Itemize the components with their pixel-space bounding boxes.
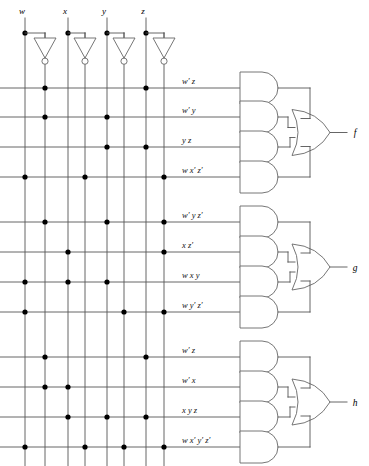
inverter-triangle-y — [113, 38, 135, 58]
connection-dot-g-0 — [42, 219, 47, 224]
and-gate-g-0 — [240, 206, 278, 238]
and-gate-g-3 — [240, 296, 278, 328]
connection-dot-g-3 — [161, 309, 166, 314]
connection-dot-h-2 — [143, 414, 148, 419]
connection-dot-f-3 — [161, 174, 166, 179]
connection-dot-h-0 — [143, 354, 148, 359]
product-term-label-f-1: w′ y — [182, 105, 196, 115]
connection-dot-g-2 — [104, 279, 109, 284]
connection-dot-h-2 — [104, 414, 109, 419]
or-gate-f — [292, 110, 330, 156]
connection-dot-h-1 — [42, 384, 47, 389]
product-term-label-h-2: x y z — [181, 405, 198, 415]
product-term-label-g-2: w x y — [182, 270, 200, 280]
connection-dot-f-1 — [104, 114, 109, 119]
connection-dot-h-1 — [65, 384, 70, 389]
connection-dot-f-2 — [104, 144, 109, 149]
connection-dot-h-3 — [161, 444, 166, 449]
connection-dot-f-0 — [42, 85, 47, 90]
connection-dot-g-2 — [22, 279, 27, 284]
product-term-label-h-3: w x′ y′ z′ — [182, 435, 211, 445]
product-term-label-f-3: w x′ z′ — [182, 165, 203, 175]
output-label-h: h — [353, 398, 358, 408]
connection-dot-h-3 — [22, 444, 27, 449]
connection-dot-g-0 — [104, 219, 109, 224]
logic-diagram-canvas: wxyzw′ zw′ yy zw x′ z′fw′ y z′x z′w x yw… — [0, 0, 369, 466]
inverter-bubble-x — [82, 58, 88, 64]
connection-dot-g-3 — [121, 309, 126, 314]
and-gate-g-2 — [240, 266, 278, 298]
or-gate-h — [292, 379, 330, 425]
connection-dot-h-3 — [121, 444, 126, 449]
and-gate-g-1 — [240, 236, 278, 268]
inverter-bubble-z — [161, 58, 167, 64]
product-term-label-g-0: w′ y z′ — [182, 210, 203, 220]
connection-dot-g-0 — [161, 219, 166, 224]
product-term-label-h-0: w′ z — [182, 345, 196, 355]
input-label-z: z — [140, 6, 145, 16]
and-gate-f-1 — [240, 101, 278, 133]
and-gate-h-3 — [240, 431, 278, 463]
connection-dot-f-0 — [143, 85, 148, 90]
pla-circuit-svg: wxyzw′ zw′ yy zw x′ z′fw′ y z′x z′w x yw… — [0, 0, 369, 466]
product-term-label-g-1: x z′ — [181, 240, 193, 250]
and-gate-f-3 — [240, 161, 278, 193]
input-label-y: y — [101, 6, 106, 16]
connection-dot-h-2 — [65, 414, 70, 419]
and-gate-f-2 — [240, 131, 278, 163]
connection-dot-h-0 — [42, 354, 47, 359]
product-term-label-h-1: w′ x — [182, 375, 196, 385]
connection-dot-h-3 — [82, 444, 87, 449]
output-label-f: f — [354, 128, 358, 138]
or-gate-g — [292, 244, 330, 290]
input-label-w: w — [19, 6, 25, 16]
connection-dot-f-3 — [22, 174, 27, 179]
inverter-triangle-x — [74, 38, 96, 58]
and-gate-h-2 — [240, 401, 278, 433]
connection-dot-f-3 — [82, 174, 87, 179]
and-gate-f-0 — [240, 72, 278, 104]
and-gate-h-0 — [240, 341, 278, 373]
connection-dot-g-1 — [161, 249, 166, 254]
and-gate-h-1 — [240, 371, 278, 403]
product-term-label-f-2: y z — [181, 135, 192, 145]
connection-dot-g-1 — [65, 249, 70, 254]
input-label-x: x — [62, 6, 67, 16]
inverter-triangle-w — [34, 38, 56, 58]
inverter-triangle-z — [153, 38, 175, 58]
product-term-label-f-0: w′ z — [182, 76, 196, 86]
connection-dot-g-3 — [22, 309, 27, 314]
inverter-bubble-y — [121, 58, 127, 64]
product-term-label-g-3: w y′ z′ — [182, 300, 203, 310]
connection-dot-f-1 — [42, 114, 47, 119]
inverter-bubble-w — [42, 58, 48, 64]
connection-dot-g-2 — [65, 279, 70, 284]
connection-dot-f-2 — [143, 144, 148, 149]
output-label-g: g — [353, 263, 358, 273]
